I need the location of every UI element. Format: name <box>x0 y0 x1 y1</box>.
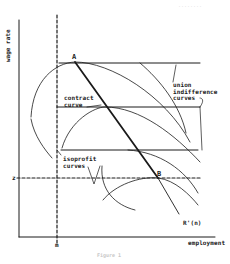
labor-demand-line <box>158 178 179 214</box>
isoprofit-curve-b <box>103 178 198 205</box>
z-marker: z <box>12 175 16 182</box>
labor-demand-label: R'(n) <box>183 220 202 227</box>
corner-text: ........ <box>178 2 202 8</box>
isoprofit-curve-low <box>102 166 135 210</box>
isoprofit-curve-a-lower <box>31 119 52 158</box>
isoprofit-curve-a <box>31 62 190 142</box>
point-b-label: B <box>157 171 161 178</box>
isoprofit-label: isoprofit curves <box>63 156 96 169</box>
m-marker: m <box>55 242 59 249</box>
point-a-label: A <box>72 54 76 61</box>
x-axis-label: employment <box>188 240 225 247</box>
union-leader-bottom <box>200 98 203 150</box>
figure-caption: Figure 1 <box>97 252 121 258</box>
contract-curve-label: contract curve <box>64 95 94 108</box>
isoprofit-curve-mid <box>62 107 200 162</box>
union-leader-top <box>173 65 176 82</box>
union-indifference-label: union indifference curves <box>173 82 218 102</box>
y-axis-label: wage rate <box>4 29 11 62</box>
